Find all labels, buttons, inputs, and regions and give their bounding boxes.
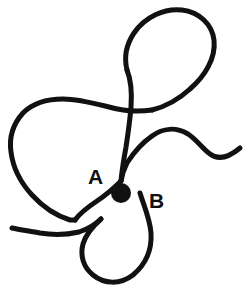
curve-figure-canvas: A B	[0, 0, 252, 295]
point-label-b: B	[149, 189, 164, 212]
curve-segment-main	[121, 129, 240, 181]
curve-diagram-svg: A B	[0, 0, 252, 295]
curve-segment-teardrop-loop	[126, 10, 215, 110]
curve-path-group	[11, 10, 241, 282]
point-label-a: A	[88, 165, 103, 188]
intersection-point-group	[111, 183, 131, 203]
intersection-point-a[interactable]	[111, 183, 131, 203]
